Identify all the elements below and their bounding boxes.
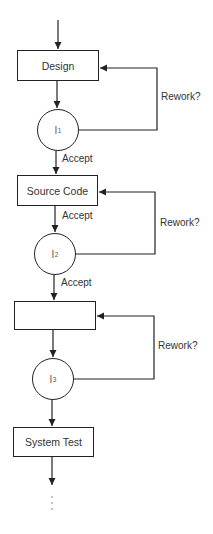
inspection-i3-circle: I3 (32, 358, 74, 400)
inspection-i1-subscript: 1 (58, 127, 62, 134)
continuation-dots (51, 496, 53, 510)
accept-label-2a: Accept (62, 210, 93, 222)
accept-label-1: Accept (62, 153, 93, 165)
accept-label-2b: Accept (61, 277, 92, 289)
rework-label-3: Rework? (158, 340, 197, 352)
inspection-i2-circle: I2 (34, 233, 76, 275)
stage-source-code-label: Source Code (27, 185, 88, 197)
stage-design-box: Design (17, 50, 99, 81)
stage-design-label: Design (42, 60, 75, 72)
rework-label-2: Rework? (160, 217, 199, 229)
inspection-i3-subscript: 3 (53, 376, 57, 383)
stage-source-code-box: Source Code (17, 175, 98, 206)
inspection-i2-subscript: 2 (55, 251, 59, 258)
stage-unnamed-box (14, 301, 96, 330)
stage-system-test-box: System Test (13, 427, 94, 457)
stage-system-test-label: System Test (25, 436, 82, 448)
rework-label-1: Rework? (161, 91, 200, 103)
inspection-i1-circle: I1 (37, 109, 79, 151)
